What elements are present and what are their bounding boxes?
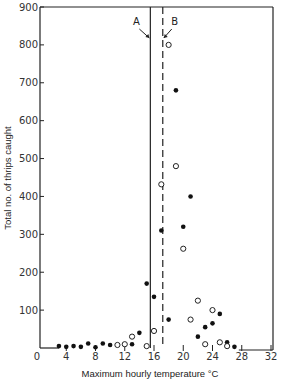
filled-data-point [93,345,98,350]
scatter-chart: 1002003004005006007008009000481216202428… [0,0,282,383]
open-data-point [225,344,230,349]
x-tick-label: 4 [63,351,69,362]
x-tick-label: 12 [118,351,131,362]
open-data-point [173,164,178,169]
annotation-label: B [171,16,178,27]
filled-data-point [196,334,201,339]
open-data-point [159,182,164,187]
filled-data-point [79,345,84,350]
annotation-label: A [133,16,140,27]
filled-data-point [137,331,142,336]
y-tick-label: 900 [19,2,38,13]
filled-data-point [218,312,223,317]
y-tick-label: 600 [19,115,38,126]
open-data-point [210,308,215,313]
filled-data-point [57,344,62,349]
data-points [57,42,237,349]
open-data-point [203,342,208,347]
x-axis-title: Maximum hourly temperature °C [82,368,219,379]
x-tick-label: 20 [177,351,190,362]
open-data-point [144,344,149,349]
y-tick-label: 400 [19,191,38,202]
filled-data-point [152,295,157,300]
filled-data-point [159,228,164,233]
filled-data-point [188,194,193,199]
filled-data-point [130,342,135,347]
open-data-point [195,298,200,303]
y-tick-label: 800 [19,39,38,50]
x-tick-label: 0 [34,351,40,362]
open-data-point [129,334,134,339]
y-tick-label: 700 [19,77,38,88]
open-data-point [181,246,186,251]
open-data-point [151,328,156,333]
x-tick-label: 28 [235,351,248,362]
y-tick-label: 200 [19,267,38,278]
filled-data-point [203,325,208,330]
filled-data-point [86,341,91,346]
open-data-point [217,340,222,345]
filled-data-point [181,224,186,229]
filled-data-point [71,344,76,349]
filled-data-point [174,88,179,93]
y-tick-label: 100 [19,305,38,316]
open-data-point [122,342,127,347]
y-tick-label: 300 [19,229,38,240]
filled-data-point [108,343,113,348]
y-axis-title: Total no. of thrips caught [2,126,13,230]
filled-data-point [210,321,215,326]
x-tick-label: 8 [92,351,98,362]
plot-frame [40,7,273,350]
y-tick-label: 500 [19,153,38,164]
open-data-point [115,342,120,347]
open-data-point [188,317,193,322]
filled-data-point [144,281,149,286]
axis-ticks: 1002003004005006007008009000481216202428… [19,2,277,363]
x-tick-label: 32 [265,351,278,362]
open-data-point [166,42,171,47]
filled-data-point [64,345,69,350]
x-tick-label: 16 [148,351,161,362]
filled-data-point [101,341,106,346]
x-tick-label: 24 [206,351,219,362]
filled-data-point [166,317,171,322]
filled-data-point [232,345,237,350]
